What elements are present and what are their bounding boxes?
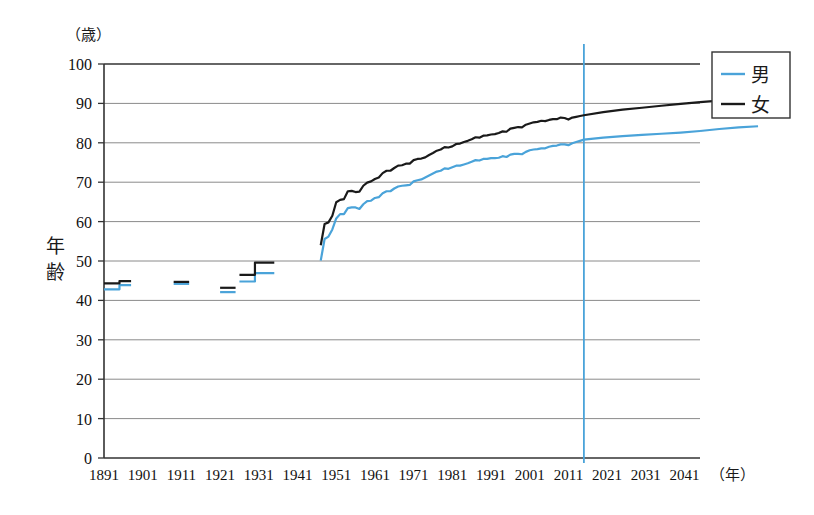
series-女-segment-4	[321, 102, 700, 245]
series-男-segment-5	[700, 126, 758, 131]
y-tick-label-40: 40	[76, 292, 92, 309]
x-tick-label-1981: 1981	[437, 467, 467, 483]
y-tick-label-20: 20	[76, 371, 92, 388]
x-tick-label-1941: 1941	[283, 467, 313, 483]
y-axis: 0102030405060708090100	[68, 56, 104, 467]
grid-lines	[104, 103, 700, 418]
y-tick-label-70: 70	[76, 174, 92, 191]
legend-label-男: 男	[751, 64, 770, 86]
y-tick-label-60: 60	[76, 214, 92, 231]
y-axis-title-char-0: 年	[46, 235, 65, 257]
x-tick-label-1971: 1971	[399, 467, 429, 483]
x-tick-label-2041: 2041	[670, 467, 700, 483]
y-tick-label-90: 90	[76, 95, 92, 112]
y-axis-title: 年齢	[46, 235, 65, 283]
life-expectancy-chart: 0102030405060708090100（歳）年齢1891190119111…	[0, 0, 814, 515]
y-axis-title-char-1: 齢	[46, 261, 65, 283]
x-tick-label-2001: 2001	[515, 467, 545, 483]
y-tick-label-80: 80	[76, 135, 92, 152]
x-tick-label-1931: 1931	[244, 467, 274, 483]
x-tick-label-1951: 1951	[321, 467, 351, 483]
x-tick-label-2011: 2011	[554, 467, 583, 483]
x-axis-unit-label: （年）	[710, 466, 755, 484]
series-女-segment-0	[104, 281, 131, 283]
x-tick-label-2031: 2031	[631, 467, 661, 483]
series-男-segment-0	[104, 285, 131, 289]
y-tick-label-0: 0	[84, 450, 92, 467]
x-tick-label-1911: 1911	[167, 467, 196, 483]
y-tick-label-100: 100	[68, 56, 92, 73]
series-女	[104, 99, 758, 288]
y-tick-label-50: 50	[76, 253, 92, 270]
data-series-group	[104, 99, 758, 292]
legend-label-女: 女	[751, 94, 770, 116]
x-tick-label-1901: 1901	[128, 467, 158, 483]
y-tick-label-30: 30	[76, 332, 92, 349]
x-tick-label-1891: 1891	[89, 467, 119, 483]
x-tick-label-1991: 1991	[476, 467, 506, 483]
x-tick-label-1921: 1921	[205, 467, 235, 483]
series-男-segment-4	[321, 131, 700, 261]
legend: 男女	[712, 52, 790, 118]
x-axis: 1891190119111921193119411951196119711981…	[89, 466, 755, 484]
y-axis-unit-label: （歳）	[66, 26, 111, 44]
series-男	[104, 126, 758, 292]
x-tick-label-2021: 2021	[592, 467, 622, 483]
y-tick-label-10: 10	[76, 411, 92, 428]
x-tick-label-1961: 1961	[360, 467, 390, 483]
chart-container: 0102030405060708090100（歳）年齢1891190119111…	[0, 0, 814, 515]
